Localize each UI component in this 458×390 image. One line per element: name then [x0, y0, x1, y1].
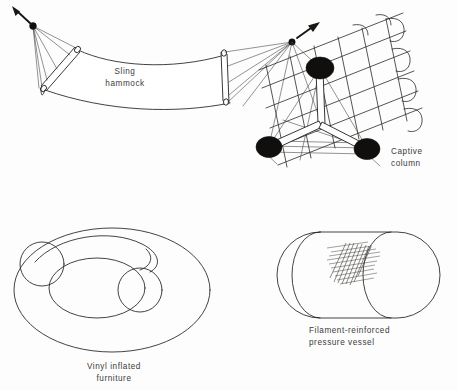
- hammock-right-guy-cables: [225, 42, 292, 106]
- right-spreader-top-cap: [221, 50, 227, 57]
- vessel-right-dome-seam: [363, 232, 391, 318]
- vessel-filament-hoop-windings: [327, 242, 380, 284]
- technical-figure: Sling hammock Captive column Vinyl infla…: [0, 0, 458, 390]
- caption-filament-reinforced-pressure-vessel: Filament-reinforced pressure vessel: [309, 325, 439, 348]
- torus-crease-return: [140, 249, 151, 270]
- torus-upper-crease: [35, 236, 158, 272]
- torus-outer-outline: [14, 228, 210, 352]
- captive-column-node-right: [354, 139, 380, 160]
- captive-column-mesh-arcs: [353, 15, 422, 132]
- vessel-left-dome-seam: [292, 232, 320, 318]
- captive-column-node-left: [256, 137, 282, 158]
- captive-column-drawing: [256, 13, 422, 167]
- sling-hammock-drawing: [12, 6, 320, 110]
- hammock-right-load-arrow: [297, 22, 320, 38]
- captive-column-node-top: [306, 57, 334, 79]
- pressure-vessel-drawing: [277, 232, 440, 318]
- caption-captive-column: Captive column: [391, 146, 455, 169]
- caption-vinyl-inflated-furniture: Vinyl inflated furniture: [62, 361, 166, 384]
- captive-column-mesh-generators: [266, 19, 407, 167]
- torus-section-left: [20, 242, 64, 286]
- hammock-left-load-arrow: [12, 6, 31, 24]
- captive-column-struts: [272, 70, 365, 150]
- caption-sling-hammock: Sling hammock: [90, 66, 160, 89]
- vinyl-furniture-drawing: [14, 228, 210, 352]
